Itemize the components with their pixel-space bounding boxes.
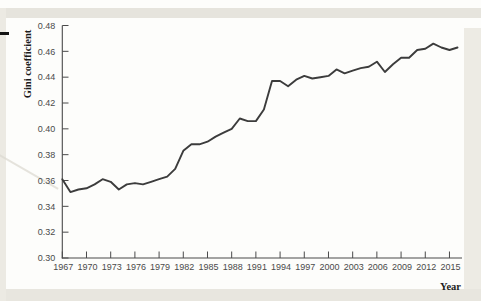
- x-tick-label: 1970: [77, 262, 97, 272]
- x-tick-label: 2006: [368, 262, 388, 272]
- gini-series-line: [62, 44, 457, 193]
- y-tick-label: 0.38: [38, 150, 56, 160]
- x-tick-label: 1985: [198, 262, 218, 272]
- y-axis-title: Gini coefficient: [22, 30, 33, 99]
- x-tick-label: 1976: [126, 262, 146, 272]
- x-tick-label: 1997: [295, 262, 315, 272]
- y-tick-label: 0.46: [38, 47, 56, 57]
- y-tick-label: 0.34: [38, 202, 56, 212]
- x-tick-label: 2003: [344, 262, 364, 272]
- y-tick-label: 0.40: [38, 124, 56, 134]
- y-tick-label: 0.48: [38, 21, 56, 31]
- x-tick-label: 1973: [102, 262, 122, 272]
- x-tick-label: 2012: [416, 262, 436, 272]
- x-tick-label: 1991: [247, 262, 267, 272]
- x-axis-title: Year: [440, 281, 461, 292]
- y-tick-label: 0.42: [38, 98, 56, 108]
- y-tick-label: 0.36: [38, 176, 56, 186]
- x-tick-label: 1982: [174, 262, 194, 272]
- x-tick-label: 2009: [392, 262, 412, 272]
- y-tick-label: 0.32: [38, 227, 56, 237]
- gini-line-chart: 0.300.320.340.360.380.400.420.440.460.48…: [0, 0, 481, 301]
- gini-coefficient-figure: 0.300.320.340.360.380.400.420.440.460.48…: [0, 0, 481, 301]
- x-tick-label: 2015: [440, 262, 460, 272]
- x-tick-label: 1994: [271, 262, 291, 272]
- x-tick-label: 1979: [150, 262, 170, 272]
- x-tick-label: 1988: [223, 262, 243, 272]
- y-tick-label: 0.44: [38, 72, 56, 82]
- x-tick-label: 2000: [319, 262, 339, 272]
- x-tick-label: 1967: [53, 262, 73, 272]
